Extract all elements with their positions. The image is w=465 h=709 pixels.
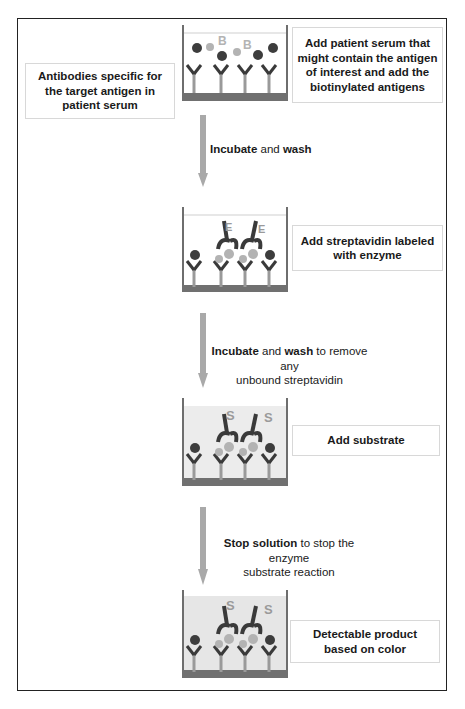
transition-2-text: Incubate and wash to remove any unbound … bbox=[207, 344, 372, 388]
svg-text:E: E bbox=[225, 221, 232, 233]
step-4-box: Detectable product based on color bbox=[290, 620, 440, 663]
transition-1-text: Incubate and wash bbox=[210, 142, 350, 157]
well-step-4: S S bbox=[180, 590, 292, 678]
svg-text:S: S bbox=[226, 408, 235, 423]
svg-text:S: S bbox=[264, 410, 273, 425]
step-4-text: Detectable product based on color bbox=[295, 627, 435, 656]
antibody-label-box: Antibodies specific for the target antig… bbox=[25, 63, 175, 119]
svg-text:B: B bbox=[218, 34, 227, 48]
transition-3-text: Stop solution to stop the enzyme substra… bbox=[208, 536, 370, 580]
step-3-box: Add substrate bbox=[292, 425, 440, 456]
antibody-label: Antibodies specific for the target antig… bbox=[30, 69, 170, 113]
step-1-text: Add patient serum that might contain the… bbox=[297, 36, 438, 94]
step-3-text: Add substrate bbox=[327, 433, 404, 448]
down-arrow-3 bbox=[198, 507, 208, 585]
svg-text:S: S bbox=[264, 602, 273, 617]
down-arrow-1 bbox=[198, 115, 208, 187]
svg-text:B: B bbox=[243, 38, 252, 52]
well-step-1: B B bbox=[180, 25, 292, 103]
well-step-3: S S bbox=[180, 398, 292, 486]
step-1-box: Add patient serum that might contain the… bbox=[292, 27, 443, 103]
svg-text:E: E bbox=[258, 223, 265, 235]
step-2-box: Add streptavidin labeled with enzyme bbox=[292, 225, 443, 271]
well-step-2: E E bbox=[180, 207, 292, 292]
step-2-text: Add streptavidin labeled with enzyme bbox=[297, 234, 438, 263]
svg-text:S: S bbox=[226, 598, 235, 613]
antibody-icon bbox=[187, 65, 276, 93]
